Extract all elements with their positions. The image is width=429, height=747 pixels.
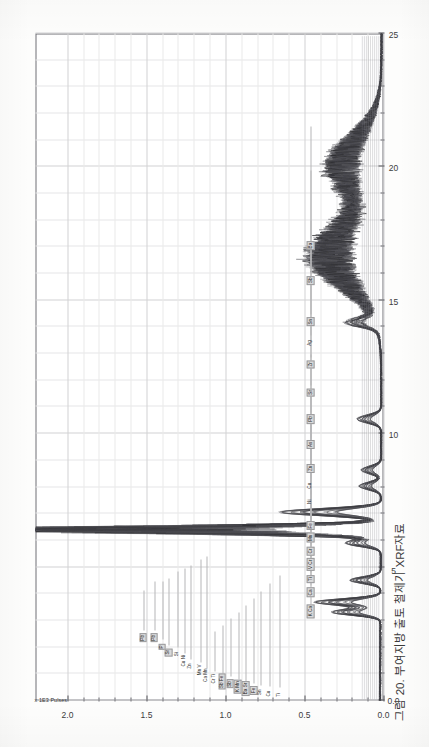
element-label-leader-line bbox=[260, 591, 261, 685]
energy-axis-tick-label: 0.0 bbox=[387, 695, 399, 705]
element-label-leader-line bbox=[154, 581, 155, 630]
element-label: Ni bbox=[308, 499, 313, 503]
intensity-axis-tick-label: 0.0 bbox=[377, 709, 389, 719]
element-label: Cr Ti bbox=[211, 673, 216, 683]
element-label-leader-line bbox=[206, 556, 207, 668]
element-label: Sr bbox=[306, 388, 314, 396]
element-label-leader-line bbox=[279, 575, 280, 687]
element-label: Sn bbox=[306, 317, 314, 326]
element-label: Zn bbox=[188, 663, 193, 668]
element-label: Ba Sr bbox=[241, 680, 249, 695]
element-label: Sb bbox=[306, 275, 314, 284]
energy-axis-tick-label: 10 bbox=[388, 429, 397, 439]
element-label: Zr bbox=[306, 360, 314, 368]
energy-axis-tick-label: 25 bbox=[388, 29, 397, 39]
element-label-leader-line bbox=[245, 605, 246, 681]
element-label: Sb bbox=[226, 679, 234, 688]
element-label: Pb bbox=[150, 633, 158, 642]
element-label-leader-line bbox=[177, 571, 178, 647]
element-label-leader-line bbox=[238, 612, 239, 679]
element-label: Ca Mn bbox=[204, 668, 209, 682]
element-label: Mn bbox=[306, 532, 314, 542]
intensity-unit-label: x 1E3 Pulses bbox=[34, 696, 67, 702]
element-labels: PbPbPSrSiCu NiZnMn VCa MnCr TiSb FeSbK M… bbox=[35, 33, 383, 700]
energy-axis-tick-label: 5 bbox=[391, 565, 396, 575]
element-label-leader-line bbox=[253, 598, 254, 683]
intensity-axis-tick-label: 0.5 bbox=[298, 709, 310, 719]
element-label: Mn V bbox=[197, 664, 202, 675]
element-label-leader-line bbox=[200, 559, 201, 662]
element-label: Cu bbox=[267, 690, 272, 696]
element-label-leader-line bbox=[310, 126, 311, 238]
intensity-axis-tick-label: 1.0 bbox=[219, 709, 231, 719]
element-label: Ca bbox=[306, 587, 314, 596]
element-label: Ti bbox=[276, 693, 281, 697]
chart-rotated-canvas: 0.05101520250.00.51.01.52.0 PbPbPSrSiCu … bbox=[35, 33, 383, 700]
element-label: Sn bbox=[257, 689, 262, 695]
element-label-leader-line bbox=[190, 565, 191, 659]
element-label: Ag bbox=[308, 340, 313, 346]
element-label: V Cr bbox=[306, 558, 314, 571]
element-label: Sb Fe bbox=[218, 673, 226, 689]
element-label-leader-line bbox=[269, 583, 270, 686]
element-label-leader-line bbox=[168, 578, 169, 645]
element-label-leader-line bbox=[214, 631, 215, 671]
energy-axis-tick-label: 20 bbox=[388, 163, 397, 173]
element-label: Ti bbox=[306, 575, 314, 582]
element-label: K Mn bbox=[234, 679, 242, 693]
intensity-axis-tick-label: 2.0 bbox=[61, 709, 73, 719]
scanned-page: CHILGI XRF Spectrum NO 001~048 그림 20. 부여… bbox=[0, 0, 429, 747]
element-label: Pb bbox=[139, 633, 147, 642]
element-label: K Ca bbox=[306, 604, 314, 618]
element-label: Cr bbox=[306, 546, 314, 554]
element-label-leader-line bbox=[143, 590, 144, 630]
element-label-leader-line bbox=[230, 618, 231, 676]
element-label-leader-line bbox=[222, 625, 223, 674]
intensity-axis-tick-label: 1.5 bbox=[140, 709, 152, 719]
figure-caption: 그림 20. 부여지방 출토 철제기 XRF자료 bbox=[391, 476, 407, 721]
element-label-leader-line bbox=[184, 568, 185, 653]
element-label: Sr bbox=[164, 648, 172, 656]
element-label-leader-line bbox=[162, 581, 163, 639]
element-label: Cu Ni bbox=[181, 655, 186, 667]
element-label: Fe bbox=[306, 521, 314, 530]
element-label: Si bbox=[175, 652, 180, 656]
element-label: Zn bbox=[306, 463, 314, 472]
energy-axis-tick-label: 15 bbox=[388, 296, 397, 306]
element-label: Pb bbox=[306, 414, 314, 423]
element-label: Ba bbox=[306, 241, 314, 250]
element-label: As bbox=[306, 439, 314, 448]
element-label: Cu bbox=[308, 482, 313, 488]
chart-area: 0.05101520250.00.51.01.52.0 PbPbPSrSiCu … bbox=[35, 33, 383, 700]
